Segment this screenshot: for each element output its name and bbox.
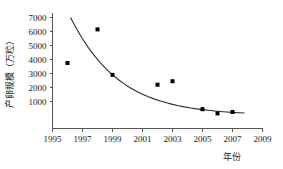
x-tick-label: 2001 — [134, 134, 152, 144]
y-tick-label: 6000 — [29, 27, 48, 37]
spawning-scale-scatter-chart: 1000200030004000500060007000 19951997199… — [0, 0, 283, 169]
x-tick-label: 2007 — [224, 134, 243, 144]
data-point-marker — [231, 110, 235, 114]
data-point-marker — [96, 27, 100, 31]
y-tick-label: 1000 — [29, 97, 48, 107]
x-axis-tick-labels: 19951997199920012003200520072009 — [44, 134, 273, 144]
y-tick-label: 3000 — [29, 69, 48, 79]
y-axis-tick-labels: 1000200030004000500060007000 — [29, 13, 48, 107]
y-tick-label: 5000 — [29, 41, 48, 51]
data-point-group — [66, 27, 235, 115]
data-point-marker — [201, 107, 205, 111]
data-point-marker — [111, 73, 115, 77]
chart-container: 1000200030004000500060007000 19951997199… — [0, 0, 283, 169]
x-tick-label: 1995 — [44, 134, 63, 144]
fitted-decay-curve — [71, 18, 245, 114]
data-point-marker — [66, 61, 70, 65]
x-tick-label: 1999 — [104, 134, 123, 144]
x-axis-title: 年份 — [223, 151, 241, 162]
x-tick-label: 1997 — [74, 134, 93, 144]
data-point-marker — [171, 79, 175, 83]
y-tick-label: 4000 — [29, 55, 48, 65]
data-point-marker — [156, 83, 160, 87]
data-point-marker — [216, 111, 220, 115]
y-tick-label: 2000 — [29, 83, 48, 93]
x-tick-label: 2009 — [254, 134, 273, 144]
y-axis-title: 产卵规模（万粒） — [4, 36, 15, 108]
y-tick-label: 7000 — [29, 13, 48, 23]
x-tick-label: 2005 — [194, 134, 213, 144]
x-tick-label: 2003 — [164, 134, 183, 144]
